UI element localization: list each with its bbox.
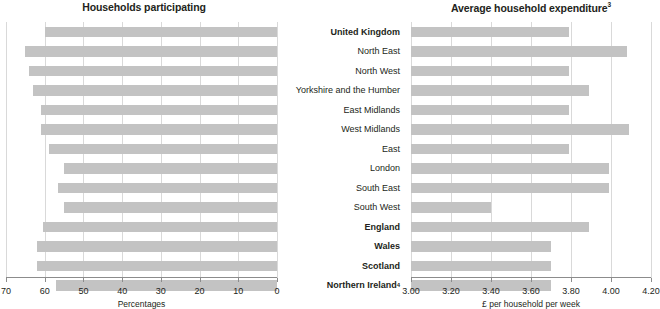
axis-tick [411,278,412,282]
category-label-text: South East [356,183,400,193]
bar-row [6,120,277,140]
category-label: Wales [288,237,400,257]
bar-row [411,178,651,198]
category-label-text: Scotland [362,261,400,271]
category-label-text: East [382,144,400,154]
axis-tick-label: 4.00 [602,286,620,296]
category-label: North East [288,42,400,62]
bar [43,222,277,233]
category-label-text: Wales [374,241,400,251]
category-label-text: East Midlands [343,105,400,115]
axis-tick-label: 3.80 [562,286,580,296]
category-label: United Kingdom [288,22,400,42]
axis-tick-label: 10 [233,286,243,296]
axis-tick-label: 3.40 [482,286,500,296]
category-label-text: United Kingdom [331,27,401,37]
bar [411,144,569,155]
category-label-text: West Midlands [341,124,400,134]
x-axis-label-right: £ per household per week [411,299,651,309]
bar [25,46,277,57]
chart-title-left: Households participating [0,1,288,13]
axis-tick-label: 60 [40,286,50,296]
axis-tick-label: 0 [274,286,279,296]
chart-title-left-text: Households participating [82,1,206,13]
bar-row [411,81,651,101]
x-axis-line-left [6,277,277,278]
bar-row [6,237,277,257]
category-label: Scotland [288,256,400,276]
axis-tick [45,278,46,282]
category-label: England [288,217,400,237]
bar-row [411,256,651,276]
category-label-text: Northern Ireland [327,280,397,290]
bar-row [6,42,277,62]
axis-tick-label: 50 [78,286,88,296]
axis-tick-label: 3.00 [402,286,420,296]
bar [411,261,551,272]
bar [411,163,609,174]
category-label-text: North West [355,66,400,76]
chart-title-right-text: Average household expenditure [451,2,608,14]
x-axis-label-left: Percentages [6,299,277,309]
category-label-footnote: 4 [397,282,400,288]
category-label: East Midlands [288,100,400,120]
bar [37,241,277,252]
bar-row [411,159,651,179]
category-label: Northern Ireland4 [288,276,400,296]
axis-tick [238,278,239,282]
bar [411,222,589,233]
bar [411,202,491,213]
bar-row [411,42,651,62]
bar-row [411,198,651,218]
axis-tick-label: 3.60 [522,286,540,296]
category-list: United KingdomNorth EastNorth WestYorksh… [288,22,406,278]
axis-tick [571,278,572,282]
axis-tick [83,278,84,282]
chart-title-right: Average household expenditure3 [406,1,656,14]
bar [37,261,277,272]
axis-tick [491,278,492,282]
bar [411,124,629,135]
bar-row [6,159,277,179]
category-label: South East [288,178,400,198]
bar-row [6,100,277,120]
category-label: South West [288,198,400,218]
bar [29,66,277,77]
gridline [651,22,652,278]
category-label-text: England [365,222,401,232]
axis-tick [277,278,278,282]
axis-tick [161,278,162,282]
bar [49,144,277,155]
axis-tick [122,278,123,282]
bar-row [411,217,651,237]
category-label-text: South West [354,202,400,212]
bar-row [6,139,277,159]
category-label: West Midlands [288,120,400,140]
bar-row [6,217,277,237]
bar [411,66,569,77]
bar-row [6,178,277,198]
bar [411,105,569,116]
axis-tick [531,278,532,282]
bar-row [411,61,651,81]
bar-row [411,100,651,120]
bar [64,202,277,213]
category-label-column: United KingdomNorth EastNorth WestYorksh… [288,0,406,308]
axis-tick [451,278,452,282]
chart-panel-right: Average household expenditure3 3.003.203… [406,0,656,308]
bar [41,124,277,135]
gridline [277,22,278,278]
category-label: North West [288,61,400,81]
bar-row [6,256,277,276]
category-label: East [288,139,400,159]
bar [64,163,277,174]
chart-panel-left: Households participating 706050403020100… [0,0,288,308]
axis-tick [651,278,652,282]
bar-row [411,22,651,42]
bar [41,105,277,116]
bar-row [6,61,277,81]
bar-row [6,81,277,101]
plot-area-right: 3.003.203.403.603.804.004.20 £ per house… [411,22,651,278]
bar-row [411,237,651,257]
